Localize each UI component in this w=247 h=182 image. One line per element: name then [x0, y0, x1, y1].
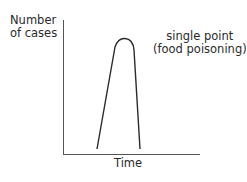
- single-point-curve: [97, 38, 140, 149]
- epidemic-curve-chart: [0, 0, 247, 182]
